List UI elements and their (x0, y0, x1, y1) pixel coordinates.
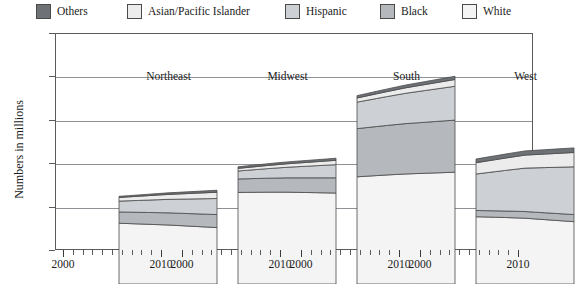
x-axis-minor-tick (270, 250, 271, 255)
x-axis-minor-tick (479, 250, 480, 255)
x-axis-tick-label-start: 2000 (279, 258, 323, 270)
x-axis-minor-tick (260, 250, 261, 255)
legend-label: Asian/Pacific Islander (148, 4, 250, 19)
x-axis-major-tick (518, 250, 519, 257)
x-axis-minor-tick (440, 250, 441, 255)
x-axis-major-tick (301, 250, 302, 257)
x-axis-minor-tick (449, 250, 450, 255)
legend-item-black: Black (380, 4, 428, 19)
x-axis-minor-tick (83, 250, 84, 255)
x-axis-group: 20002010 (416, 250, 523, 268)
y-axis-tick-mark (49, 250, 55, 251)
x-axis-minor-tick (498, 250, 499, 255)
x-axis-group: 20002010 (297, 250, 404, 268)
x-axis-minor-tick (370, 250, 371, 255)
x-axis-minor-tick (192, 250, 193, 255)
x-axis-minor-tick (202, 250, 203, 255)
x-axis-minor-tick (241, 250, 242, 255)
x-axis-minor-tick (141, 250, 142, 255)
x-axis-major-tick (420, 250, 421, 257)
area-band-black (357, 120, 455, 177)
x-axis-minor-tick (340, 250, 341, 255)
legend-item-others: Others (36, 4, 88, 19)
area-band-hispanic (476, 167, 574, 215)
x-axis-minor-tick (459, 250, 460, 255)
x-axis-major-tick (399, 250, 400, 257)
x-axis-minor-tick (73, 250, 74, 255)
legend-swatch-icon (36, 4, 51, 19)
legend-item-white: White (462, 4, 511, 19)
x-axis-major-tick (182, 250, 183, 257)
x-axis-tick-label-start: 2000 (398, 258, 442, 270)
area-band-white (238, 192, 336, 284)
legend-swatch-icon (285, 4, 300, 19)
x-axis-minor-tick (112, 250, 113, 255)
x-axis-minor-tick (321, 250, 322, 255)
x-axis-minor-tick (231, 250, 232, 255)
legend-item-asian-pacific-islander: Asian/Pacific Islander (127, 4, 250, 19)
x-axis-minor-tick (311, 250, 312, 255)
x-axis-group: 20002010 (59, 250, 166, 268)
x-axis-minor-tick (221, 250, 222, 255)
legend-swatch-icon (462, 4, 477, 19)
x-axis-minor-tick (92, 250, 93, 255)
x-axis-tick-label-start: 2000 (160, 258, 204, 270)
plot-frame: NortheastMidwestSouthWest (55, 33, 533, 250)
x-axis-minor-tick (489, 250, 490, 255)
legend-label: White (483, 4, 511, 19)
legend-label: Black (401, 4, 428, 19)
x-axis-major-tick (161, 250, 162, 257)
x-axis-minor-tick (350, 250, 351, 255)
chart-legend: OthersAsian/Pacific IslanderHispanicBlac… (0, 0, 539, 26)
legend-label: Hispanic (306, 4, 347, 19)
x-axis-group: 20002010 (178, 250, 285, 268)
x-axis-minor-tick (379, 250, 380, 255)
x-axis-minor-tick (389, 250, 390, 255)
x-axis-minor-tick (330, 250, 331, 255)
x-axis-minor-tick (469, 250, 470, 255)
x-axis-major-tick (280, 250, 281, 257)
x-axis-major-tick (63, 250, 64, 257)
x-axis-minor-tick (430, 250, 431, 255)
legend-swatch-icon (127, 4, 142, 19)
x-axis-minor-tick (151, 250, 152, 255)
x-axis-tick-label-end: 2010 (496, 258, 540, 270)
x-axis-minor-tick (508, 250, 509, 255)
x-axis-minor-tick (122, 250, 123, 255)
y-axis-label: Numbers in millions (12, 65, 27, 235)
legend-item-hispanic: Hispanic (285, 4, 347, 19)
x-axis-tick-label-start: 2000 (41, 258, 85, 270)
area-band-black (238, 178, 336, 193)
legend-label: Others (57, 4, 88, 19)
x-axis-minor-tick (211, 250, 212, 255)
x-axis-minor-tick (251, 250, 252, 255)
x-axis-minor-tick (360, 250, 361, 255)
x-axis-minor-tick (102, 250, 103, 255)
legend-swatch-icon (380, 4, 395, 19)
x-axis-minor-tick (132, 250, 133, 255)
